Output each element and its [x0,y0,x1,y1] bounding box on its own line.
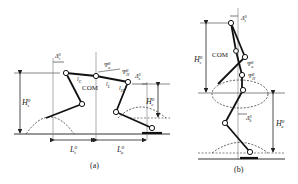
foot-trajectory-lower [212,143,268,154]
label-psi-h-b: Ψ0H [248,72,256,81]
right-shank [116,112,152,128]
label-com-a: COM [82,84,99,92]
com-point-b [234,49,239,54]
left-thigh [66,73,82,104]
label-hs-b: H0s [193,55,203,65]
leg-kinematics-diagram: H0s H0c Δ0s Δ0e lC COM Ψ0u [0,0,298,184]
left-shank [46,104,82,118]
label-lc-left: lC [77,76,82,84]
panel-a: H0s H0c Δ0s Δ0e lC COM Ψ0u [14,52,170,170]
foot-trajectory-left [26,117,74,134]
hip-joint-left [63,70,68,75]
label-lc-right: lL [106,81,111,89]
right-thigh [116,82,128,112]
label-hc: H0c [145,97,155,107]
label-com-b: COM [212,51,229,59]
ankle-joint-right [149,125,154,130]
head-joint [228,20,233,25]
knee-joint-b [240,87,245,92]
caption-a: (a) [90,161,99,170]
label-delta-b: Δ0s [240,14,247,23]
label-psi-u: Ψ0u [104,61,110,70]
knee-joint-right [113,109,118,114]
label-ls: L0s [69,145,77,155]
label-delta-e: Δ0e [134,72,141,81]
label-hs: H0s [21,98,31,108]
caption-b: (b) [234,165,244,174]
com-point [93,73,98,78]
hip-joint-b [242,54,247,59]
label-psi-u-b: Ψ0u [247,60,253,69]
label-he: H0e [275,119,285,129]
hip-joint-right [125,79,130,84]
stance-shank [225,123,250,152]
knee-joint-b2 [222,120,227,125]
label-le: L0e [116,145,124,155]
trunk-link [66,73,96,76]
ankle-joint-b [247,149,252,154]
label-delta-s: Δ0s [54,52,61,61]
label-psi-h: Ψ0H [122,68,130,77]
hip-joint-b2 [239,72,244,77]
knee-joint-left [79,101,84,106]
panel-b: H0s H0e Δ0s COM Ψ0u Ψ0H Δ0k [193,8,285,174]
label-delta-k: Δ0k [245,114,252,123]
